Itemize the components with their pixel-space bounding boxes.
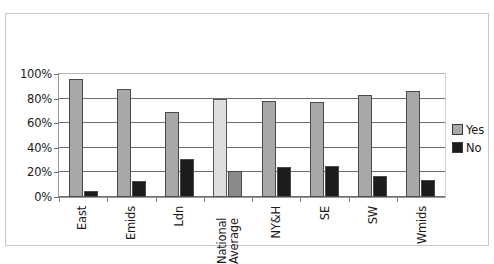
x-axis-label: Emids — [124, 206, 138, 240]
y-axis-tick-label: 0% — [34, 190, 52, 204]
x-axis-label-cell: East — [58, 204, 107, 262]
bar-yes[interactable] — [358, 95, 372, 197]
bar-group — [107, 74, 155, 197]
bar-no[interactable] — [228, 171, 242, 197]
plot-area: 0%20%40%60%80%100% — [58, 73, 446, 198]
bar-no[interactable] — [180, 159, 194, 197]
x-axis-tick — [204, 197, 205, 202]
x-axis-label: Wmids — [415, 206, 429, 244]
legend-swatch-icon — [452, 142, 463, 153]
x-axis-tick — [59, 197, 60, 202]
bar-yes[interactable] — [262, 101, 276, 197]
x-axis-label-cell: National Average — [204, 204, 253, 262]
y-axis-tick-label: 60% — [27, 116, 52, 130]
x-axis-label: SE — [318, 206, 332, 220]
bar-no[interactable] — [421, 180, 435, 197]
legend-item[interactable]: Yes — [452, 122, 484, 137]
bar-yes[interactable] — [310, 102, 324, 197]
x-axis-label: National Average — [216, 206, 240, 264]
legend-label: Yes — [466, 123, 484, 137]
x-axis-label: NY&H — [269, 206, 283, 238]
bar-group — [252, 74, 300, 197]
x-axis-tick — [349, 197, 350, 202]
x-axis-label-cell: Emids — [107, 204, 156, 262]
x-axis-label-cell: Ldn — [155, 204, 204, 262]
bar-no[interactable] — [325, 166, 339, 197]
bar-no[interactable] — [84, 191, 98, 197]
x-axis-labels: EastEmidsLdnNational AverageNY&HSESWWmid… — [58, 204, 446, 262]
x-axis-tick — [252, 197, 253, 202]
bar-group — [349, 74, 397, 197]
bar-yes[interactable] — [213, 99, 227, 197]
bar-group — [204, 74, 252, 197]
bar-no[interactable] — [373, 176, 387, 197]
x-axis-label-cell: Wmids — [398, 204, 447, 262]
bar-yes[interactable] — [406, 91, 420, 197]
bar-groups — [59, 74, 445, 197]
bar-group — [59, 74, 107, 197]
bar-group — [156, 74, 204, 197]
bar-group — [397, 74, 445, 197]
x-axis-tick — [397, 197, 398, 202]
y-axis-tick-label: 100% — [20, 67, 52, 81]
chart-legend: YesNo — [452, 122, 484, 158]
bar-no[interactable] — [277, 167, 291, 197]
legend-item[interactable]: No — [452, 140, 484, 155]
x-axis-label: Ldn — [172, 206, 186, 226]
bar-yes[interactable] — [117, 89, 131, 197]
x-axis-tick — [156, 197, 157, 202]
y-axis-tick-label: 40% — [27, 141, 52, 155]
x-axis-label-cell: SW — [349, 204, 398, 262]
y-axis-tick-label: 20% — [27, 165, 52, 179]
x-axis-label-cell: NY&H — [252, 204, 301, 262]
bar-no[interactable] — [132, 181, 146, 197]
chart-frame: 0%20%40%60%80%100% EastEmidsLdnNational … — [5, 13, 489, 246]
y-axis-tick-label: 80% — [27, 92, 52, 106]
bar-group — [300, 74, 348, 197]
x-axis-label-cell: SE — [301, 204, 350, 262]
bar-yes[interactable] — [165, 112, 179, 197]
x-axis-tick — [107, 197, 108, 202]
x-axis-label: East — [75, 206, 89, 230]
x-axis-label: SW — [366, 206, 380, 224]
legend-label: No — [466, 141, 481, 155]
bar-yes[interactable] — [69, 79, 83, 197]
x-axis-tick — [300, 197, 301, 202]
legend-swatch-icon — [452, 124, 463, 135]
